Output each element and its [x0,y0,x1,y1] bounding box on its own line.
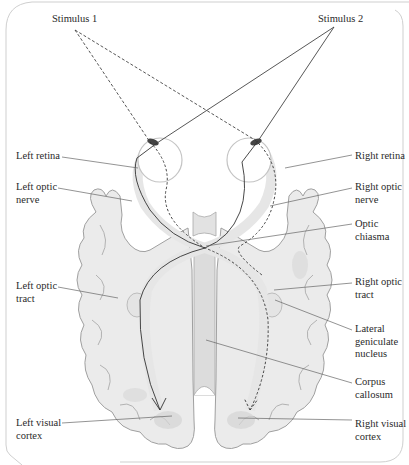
label-right-retina: Right retina [355,150,405,163]
stimulus-1-rays [75,30,255,142]
label-left-visual-cortex: Left visual cortex [16,417,61,442]
label-left-retina: Left retina [16,150,60,163]
label-right-optic-nerve: Right optic nerve [355,181,402,206]
label-corpus-callosum: Corpus callosum [355,376,393,401]
label-right-visual-cortex: Right visual cortex [355,418,406,443]
label-lateral-geniculate-nucleus: Lateral geniculate nucleus [355,323,398,361]
right-eye [227,137,271,182]
diagram-frame: Stimulus 1 Stimulus 2 Left retina Left o… [0,0,409,465]
stimulus-2-rays [157,27,334,143]
corpus-callosum-structure [193,212,216,395]
stimulus-1-label: Stimulus 1 [52,13,97,26]
stimulus-2-label: Stimulus 2 [318,13,363,26]
visual-pathway-illustration [0,0,409,465]
brainstem-notch [193,212,216,236]
left-eye [138,137,182,182]
brain-left-hemisphere [77,189,194,449]
label-optic-chiasma: Optic chiasma [355,218,389,243]
brain-right-hemisphere [215,189,332,449]
label-left-optic-tract: Left optic tract [16,280,57,305]
label-right-optic-tract: Right optic tract [355,276,402,301]
label-left-optic-nerve: Left optic nerve [16,181,57,206]
